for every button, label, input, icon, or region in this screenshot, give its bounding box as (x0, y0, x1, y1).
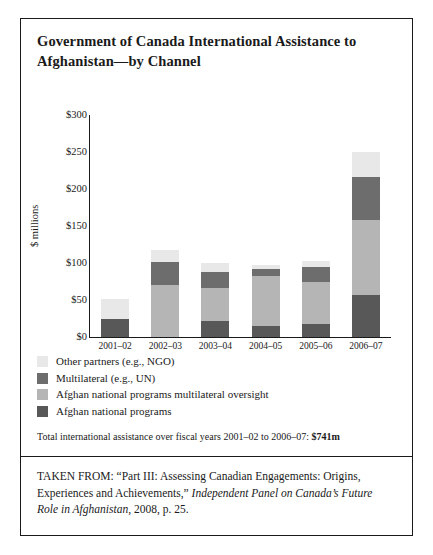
x-axis-line (89, 337, 391, 338)
y-axis-ticks: $300$250$200$150$100$50$0 (39, 97, 87, 359)
legend-item-afghan_national_programs: Afghan national programs (37, 405, 397, 418)
legend-item-multilateral: Multilateral (e.g., UN) (37, 372, 397, 385)
stacked-bar[interactable] (252, 265, 280, 337)
figure-frame: Government of Canada International Assis… (20, 18, 413, 536)
x-axis-tick-2003–04: 2003–04 (190, 341, 240, 351)
x-axis-tick-2002–03: 2002–03 (140, 341, 190, 351)
bar-slot (241, 115, 291, 337)
bar-segment (201, 263, 229, 272)
legend-label: Multilateral (e.g., UN) (56, 372, 155, 385)
legend-swatch-icon (37, 373, 48, 384)
bar-segment (151, 250, 179, 261)
legend-label: Afghan national programs (56, 405, 171, 418)
bar-segment (201, 272, 229, 288)
stacked-bar[interactable] (201, 263, 229, 337)
bar-segment (302, 282, 330, 323)
bar-segment (252, 276, 280, 326)
bar-segment (302, 261, 330, 268)
total-note: Total international assistance over fisc… (37, 431, 397, 442)
stacked-bar[interactable] (151, 250, 179, 337)
bar-segment (302, 324, 330, 337)
y-axis-tick-150: $150 (43, 221, 87, 232)
total-note-value: $741m (312, 431, 340, 442)
x-axis-tick-2001–02: 2001–02 (90, 341, 140, 351)
bar-segment (252, 269, 280, 276)
x-axis-tick-2005–06: 2005–06 (291, 341, 341, 351)
legend-label: Afghan national programs multilateral ov… (56, 388, 269, 401)
bar-segment (352, 177, 380, 220)
legend-swatch-icon (37, 356, 48, 367)
bar-segment (101, 299, 129, 319)
bar-segment (201, 321, 229, 337)
chart-legend: Other partners (e.g., NGO)Multilateral (… (37, 355, 397, 422)
bar-segment (101, 319, 129, 338)
legend-swatch-icon (37, 389, 48, 400)
x-axis-tick-2004–05: 2004–05 (241, 341, 291, 351)
legend-label: Other partners (e.g., NGO) (56, 355, 175, 368)
bar-slot (341, 115, 391, 337)
y-axis-tick-50: $50 (43, 295, 87, 306)
bar-slot (291, 115, 341, 337)
bar-segment (352, 295, 380, 337)
bar-slot (90, 115, 140, 337)
bar-slot (140, 115, 190, 337)
stacked-bar[interactable] (101, 299, 129, 337)
x-axis-tick-2006–07: 2006–07 (341, 341, 391, 351)
bar-segment (352, 220, 380, 295)
citation-tail: , 2008, p. 25. (128, 503, 188, 515)
y-axis-tick-250: $250 (43, 147, 87, 158)
y-axis-tick-300: $300 (43, 110, 87, 121)
bar-segment (151, 285, 179, 337)
legend-item-afghan_multilateral_oversight: Afghan national programs multilateral ov… (37, 388, 397, 401)
chart-plot-area: $ millions $300$250$200$150$100$50$0 200… (21, 97, 414, 359)
divider (21, 456, 412, 457)
legend-swatch-icon (37, 406, 48, 417)
bar-segment (151, 262, 179, 286)
bar-group (90, 115, 391, 337)
bar-slot (190, 115, 240, 337)
total-note-text: Total international assistance over fisc… (37, 431, 312, 442)
bar-segment (352, 152, 380, 177)
y-axis-tick-0: $0 (43, 332, 87, 343)
stacked-bar[interactable] (352, 152, 380, 337)
bar-segment (302, 267, 330, 282)
legend-item-other_partners: Other partners (e.g., NGO) (37, 355, 397, 368)
stacked-bar[interactable] (302, 261, 330, 337)
y-axis-tick-100: $100 (43, 258, 87, 269)
bar-segment (252, 326, 280, 337)
source-citation: TAKEN FROM: “Part III: Assessing Canadia… (37, 468, 392, 518)
y-axis-tick-200: $200 (43, 184, 87, 195)
figure-title: Government of Canada International Assis… (37, 31, 387, 71)
bar-segment (201, 288, 229, 321)
